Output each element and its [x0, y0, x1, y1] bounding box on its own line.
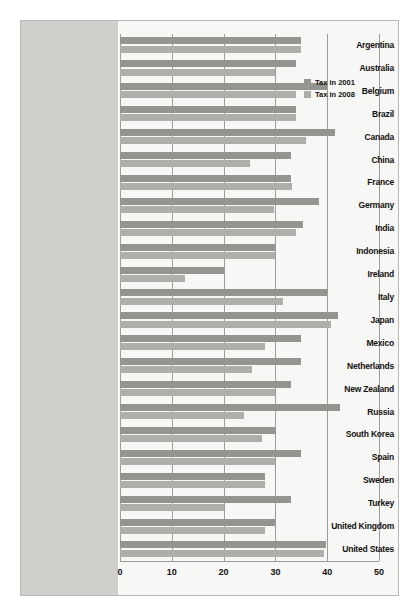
bar-2001 [120, 496, 291, 503]
bar-2008 [120, 550, 324, 557]
bar-2001 [120, 60, 296, 67]
bar-row [120, 355, 379, 378]
category-label-turkey: Turkey [368, 498, 394, 508]
bar-2001 [120, 289, 327, 296]
category-label-united-states: United States [342, 544, 394, 554]
category-label-belgium: Belgium [362, 86, 394, 96]
category-label-italy: Italy [378, 292, 394, 302]
bar-2001 [120, 221, 303, 228]
bar-2008 [120, 275, 185, 282]
category-label-argentina: Argentina [356, 40, 394, 50]
bar-2001 [120, 404, 340, 411]
bar-row [120, 286, 379, 309]
bar-2008 [120, 389, 275, 396]
bar-row [120, 126, 379, 149]
category-label-brazil: Brazil [372, 109, 394, 119]
category-label-france: France [367, 177, 394, 187]
category-label-new-zealand: New Zealand [344, 384, 394, 394]
legend-label-0: Tax in 2001 [315, 78, 355, 87]
bar-2008 [120, 137, 306, 144]
category-label-mexico: Mexico [366, 338, 394, 348]
bar-2001 [120, 358, 301, 365]
bar-row [120, 217, 379, 240]
bar-2008 [120, 412, 244, 419]
category-label-australia: Australia [359, 63, 394, 73]
bar-row [120, 57, 379, 80]
category-label-sweden: Sweden [363, 475, 394, 485]
legend-swatch-icon-0 [304, 79, 311, 86]
bar-row [120, 378, 379, 401]
x-axis-line [120, 561, 379, 562]
category-label-spain: Spain [372, 452, 394, 462]
plot-area [120, 34, 379, 561]
bar-row [120, 34, 379, 57]
legend-item-1: Tax in 2008 [304, 90, 355, 99]
bar-2008 [120, 183, 292, 190]
bar-2008 [120, 366, 252, 373]
bar-row [120, 401, 379, 424]
bar-2001 [120, 312, 338, 319]
bar-2008 [120, 435, 262, 442]
bar-row [120, 446, 379, 469]
bar-2008 [120, 321, 331, 328]
category-label-russia: Russia [367, 407, 394, 417]
x-tick-label-30: 30 [270, 567, 280, 577]
category-label-ireland: Ireland [368, 269, 394, 279]
bar-row [120, 309, 379, 332]
category-label-united-kingdom: United Kingdom [331, 521, 394, 531]
x-tick-label-50: 50 [374, 567, 384, 577]
bar-2001 [120, 473, 265, 480]
category-label-indonesia: Indonesia [356, 246, 394, 256]
bar-2001 [120, 335, 301, 342]
category-label-netherlands: Netherlands [347, 361, 394, 371]
bar-2008 [120, 458, 275, 465]
category-label-canada: Canada [364, 132, 394, 142]
bar-2001 [120, 244, 275, 251]
bar-2008 [120, 229, 296, 236]
bar-2001 [120, 175, 291, 182]
category-label-south-korea: South Korea [346, 429, 394, 439]
bar-2001 [120, 519, 275, 526]
bar-2001 [120, 541, 326, 548]
bar-row [120, 538, 379, 561]
bar-2001 [120, 129, 335, 136]
bar-2008 [120, 527, 265, 534]
bar-2001 [120, 152, 291, 159]
bar-row [120, 149, 379, 172]
bar-2001 [120, 83, 327, 90]
category-label-china: China [371, 155, 394, 165]
category-label-gutter [21, 21, 118, 595]
bar-2008 [120, 206, 274, 213]
bar-2008 [120, 481, 265, 488]
bar-row [120, 194, 379, 217]
bar-2001 [120, 106, 296, 113]
bar-2008 [120, 69, 275, 76]
legend-label-1: Tax in 2008 [315, 90, 355, 99]
bar-row [120, 240, 379, 263]
bar-2008 [120, 46, 301, 53]
x-tick-label-40: 40 [322, 567, 332, 577]
x-tick-label-20: 20 [219, 567, 229, 577]
bar-2008 [120, 343, 265, 350]
bar-2001 [120, 267, 224, 274]
bar-2001 [120, 198, 319, 205]
x-tick-label-10: 10 [167, 567, 177, 577]
category-label-germany: Germany [359, 200, 394, 210]
bar-2008 [120, 298, 283, 305]
bar-row [120, 103, 379, 126]
bar-2008 [120, 114, 296, 121]
bar-row [120, 263, 379, 286]
legend-swatch-icon-1 [304, 91, 311, 98]
bar-row [120, 424, 379, 447]
bar-2001 [120, 381, 291, 388]
legend-item-0: Tax in 2001 [304, 78, 355, 87]
chart-figure: ArgentinaAustraliaBelgiumBrazilCanadaChi… [20, 20, 399, 596]
bar-2001 [120, 450, 301, 457]
bar-2008 [120, 91, 296, 98]
bar-2008 [120, 160, 250, 167]
bar-2008 [120, 252, 275, 259]
bar-row [120, 171, 379, 194]
x-tick-label-0: 0 [117, 567, 122, 577]
bar-row [120, 332, 379, 355]
category-label-india: India [375, 223, 394, 233]
